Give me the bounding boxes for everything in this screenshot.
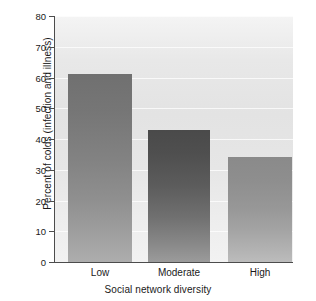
y-tick-mark (49, 139, 54, 140)
y-tick-label: 40 (6, 134, 46, 145)
bar-moderate (148, 130, 210, 262)
x-tick-label-moderate: Moderate (158, 267, 200, 278)
y-tick-mark (49, 16, 54, 17)
y-tick-mark (49, 78, 54, 79)
x-axis-line (54, 262, 293, 263)
y-tick-mark (49, 262, 54, 263)
y-tick-label: 50 (6, 103, 46, 114)
y-tick-label: 70 (6, 41, 46, 52)
y-tick-mark (49, 231, 54, 232)
y-axis-line (54, 16, 55, 263)
gridline (55, 16, 293, 17)
bar-low (68, 74, 132, 262)
y-tick-label: 20 (6, 195, 46, 206)
x-axis-title: Social network diversity (0, 284, 316, 295)
x-tick-label-low: Low (91, 267, 109, 278)
y-tick-label: 60 (6, 72, 46, 83)
y-tick-label: 30 (6, 164, 46, 175)
y-tick-label: 0 (6, 257, 46, 268)
y-tick-mark (49, 201, 54, 202)
y-tick-label: 80 (6, 11, 46, 22)
y-tick-mark (49, 47, 54, 48)
y-axis-title: Percent of colds (infection and illness) (42, 0, 53, 249)
bar-chart-figure: Percent of colds (infection and illness)… (0, 0, 316, 301)
x-tick-label-high: High (250, 267, 271, 278)
y-tick-mark (49, 170, 54, 171)
y-tick-mark (49, 108, 54, 109)
bar-high (228, 157, 292, 262)
y-tick-label: 10 (6, 226, 46, 237)
gridline (55, 47, 293, 48)
